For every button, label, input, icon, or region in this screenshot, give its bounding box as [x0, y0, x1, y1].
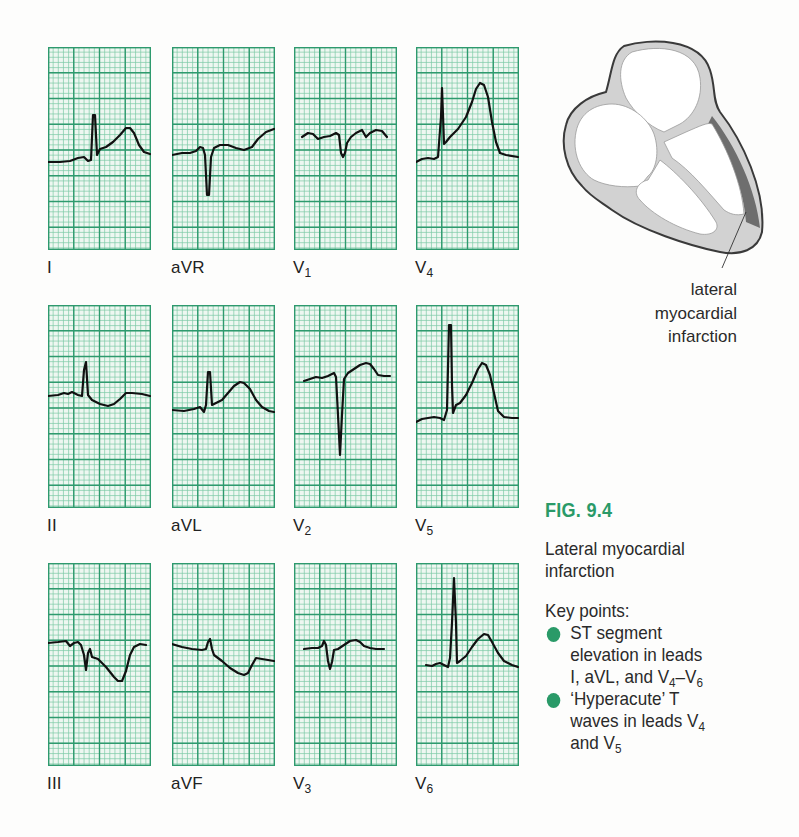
lead-label: V4: [415, 259, 433, 276]
bullet-icon: [547, 693, 561, 708]
label-line-2: myocardial: [655, 302, 737, 326]
lead-label: aVR: [171, 259, 205, 276]
ecg-grid: [294, 305, 397, 508]
ecg-grid: [172, 305, 275, 508]
ecg-lead-panel: [48, 563, 151, 766]
key-point-2-line-3: and V5: [570, 732, 779, 754]
key-point-2-line-1: ‘Hyperacute’ T: [570, 688, 779, 710]
key-point-2-line-2: waves in leads V4: [570, 710, 779, 732]
lead-label: aVL: [171, 517, 202, 534]
label-line-3: infarction: [655, 325, 737, 349]
ecg-lead-panel: [416, 47, 519, 250]
key-points: Key points: ST segment elevation in lead…: [545, 600, 779, 754]
ecg-grid: [172, 47, 275, 250]
key-point-1-line-1: ST segment: [570, 622, 779, 644]
ecg-lead-panel: [416, 305, 519, 508]
ecg-grid: [48, 563, 151, 766]
ecg-lead-panel: [294, 47, 397, 250]
ecg-lead-panel: [48, 305, 151, 508]
bullet-icon: [547, 627, 561, 642]
ecg-grid: [172, 563, 275, 766]
key-point-1-line-2: elevation in leads: [570, 644, 779, 666]
lead-label: III: [47, 775, 62, 792]
ecg-grid: [48, 305, 151, 508]
label-line-1: lateral: [655, 278, 737, 302]
key-point-1: ST segment elevation in leads I, aVL, an…: [545, 622, 779, 688]
lead-label: aVF: [171, 775, 203, 792]
ecg-lead-panel: [294, 563, 397, 766]
lead-label: I: [47, 259, 52, 276]
figure-title: Lateral myocardial infarction: [545, 538, 770, 582]
ecg-lead-panel: [416, 563, 519, 766]
lead-label: V6: [415, 775, 433, 792]
lead-label: II: [47, 517, 57, 534]
lead-label: V1: [293, 259, 311, 276]
ecg-lead-panel: [294, 305, 397, 508]
figure-title-line-2: infarction: [545, 560, 770, 582]
ecg-grid: [416, 47, 519, 250]
ecg-lead-panel: [172, 305, 275, 508]
ecg-lead-panel: [172, 47, 275, 250]
lead-label: V2: [293, 517, 311, 534]
key-points-heading: Key points:: [545, 600, 779, 622]
lead-label: V5: [415, 517, 433, 534]
lead-label: V3: [293, 775, 311, 792]
key-point-2: ‘Hyperacute’ T waves in leads V4 and V5: [545, 688, 779, 754]
ecg-grid: [48, 47, 151, 250]
ecg-lead-panel: [48, 47, 151, 250]
ecg-grid: [294, 47, 397, 250]
ecg-grid: [416, 305, 519, 508]
key-point-1-line-3: I, aVL, and V4–V6: [570, 666, 779, 688]
figure-title-line-1: Lateral myocardial: [545, 538, 770, 560]
ecg-grid: [294, 563, 397, 766]
ecg-lead-panel: [172, 563, 275, 766]
infarction-label: lateral myocardial infarction: [655, 278, 737, 349]
ecg-grid: [416, 563, 519, 766]
heart-cross-section-diagram: [555, 40, 785, 270]
figure-number: FIG. 9.4: [545, 498, 612, 522]
